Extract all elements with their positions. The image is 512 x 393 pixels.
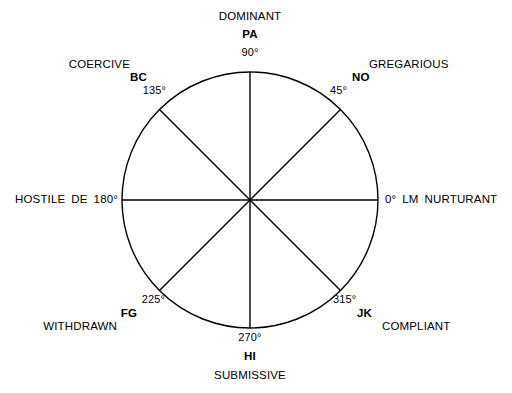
octant-label-trait-pa: DOMINANT [219, 10, 282, 23]
octant-label-trait-jk: COMPLIANT [382, 320, 450, 333]
octant-label-code-de: DE [71, 193, 87, 206]
interpersonal-circumplex-figure: DOMINANT PA 90° GREGARIOUS NO 45° 0° LM … [0, 0, 512, 393]
octant-label-trait-no: GREGARIOUS [369, 58, 448, 71]
octant-label-code-fg: FG [121, 307, 137, 320]
octant-label-code-no: NO [352, 71, 370, 84]
octant-label-trait-bc: COERCIVE [69, 58, 130, 71]
octant-label-code-hi: HI [244, 350, 256, 363]
cropped-caption-text [255, 386, 258, 390]
octant-label-trait-hi: SUBMISSIVE [214, 369, 286, 382]
octant-label-code-bc: BC [130, 71, 147, 84]
octant-label-degrees-fg: 225° [142, 293, 165, 305]
octant-label-code-pa: PA [242, 28, 257, 41]
octant-label-degrees-no: 45° [330, 84, 347, 96]
octant-label-trait-lm: NURTURANT [425, 193, 498, 206]
octant-label-degrees-pa: 90° [241, 46, 258, 58]
octant-label-group-de: HOSTILE DE 180° [15, 193, 118, 206]
octant-label-degrees-bc: 135° [143, 84, 166, 96]
octant-label-code-jk: JK [357, 307, 372, 320]
octant-label-trait-de: HOSTILE [15, 193, 65, 206]
octant-label-degrees-jk: 315° [333, 293, 356, 305]
octant-label-degrees-de: 180° [94, 193, 118, 206]
octant-label-degrees-hi: 270° [238, 331, 261, 343]
octant-label-trait-fg: WITHDRAWN [43, 320, 117, 333]
cropped-caption-strip [0, 386, 512, 393]
octant-label-code-lm: LM [402, 193, 418, 206]
octant-label-group-lm: 0° LM NURTURANT [385, 193, 497, 206]
octant-label-degrees-lm: 0° [385, 193, 396, 206]
